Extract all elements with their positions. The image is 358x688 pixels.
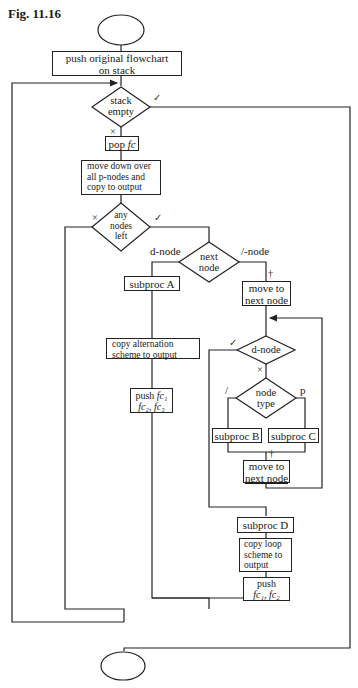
decision-text: next bbox=[189, 251, 229, 262]
any-nodes-left-decision: any nodes left bbox=[101, 210, 141, 242]
subproc-b-box: subproc B bbox=[212, 428, 262, 443]
move-to-next-node-box-2: move to next node bbox=[243, 460, 290, 483]
p-branch-label: p bbox=[300, 384, 306, 396]
decision-text: node bbox=[246, 387, 286, 398]
decision-text: empty bbox=[96, 106, 146, 117]
box-text: copy loop bbox=[244, 539, 282, 550]
box-text: push bbox=[135, 390, 154, 401]
decision-text: nodes bbox=[101, 221, 141, 232]
decision-text: type bbox=[246, 398, 286, 409]
subproc-d-box: subproc D bbox=[237, 517, 294, 533]
push-original-flowchart-box: push original flowchart on stack bbox=[52, 51, 182, 76]
box-text: subproc B bbox=[215, 430, 260, 442]
next-node-decision: next node bbox=[189, 251, 229, 273]
d-node-branch-label: d-node bbox=[150, 245, 181, 257]
no-cross-icon: × bbox=[257, 364, 263, 375]
move-down-box: move down over all p-nodes and copy to o… bbox=[81, 160, 161, 195]
yes-check-icon: ✓ bbox=[154, 212, 162, 223]
box-text: push original flowchart bbox=[66, 52, 169, 64]
variable-text: fc₁ bbox=[157, 390, 168, 401]
box-text: next node bbox=[245, 472, 288, 484]
box-text: subproc C bbox=[271, 430, 316, 442]
box-text: copy to output bbox=[87, 182, 142, 193]
copy-loop-box: copy loop scheme to output bbox=[239, 538, 292, 572]
decision-text: any bbox=[101, 210, 141, 221]
box-text: subproc A bbox=[130, 278, 175, 290]
yes-check-icon: ✓ bbox=[153, 92, 161, 103]
box-text: scheme to bbox=[244, 550, 282, 561]
box-text: move to bbox=[249, 282, 285, 294]
l-node-branch-label: /-node bbox=[241, 245, 269, 257]
decision-text: node bbox=[189, 262, 229, 273]
box-text: subproc D bbox=[243, 519, 289, 531]
move-to-next-node-box: move to next node bbox=[242, 281, 291, 306]
box-text: output bbox=[244, 560, 268, 571]
box-text: all p-nodes and bbox=[87, 172, 145, 183]
copy-alternation-box: copy alternation scheme to output bbox=[106, 338, 200, 359]
variable-text: fc₂, fc₃ bbox=[138, 401, 164, 412]
box-text: push bbox=[257, 578, 276, 589]
decision-text: d-node bbox=[241, 344, 291, 355]
end-terminal bbox=[101, 652, 145, 680]
dagger-icon: † bbox=[268, 268, 273, 279]
box-text: copy alternation bbox=[112, 339, 173, 350]
dagger-icon: † bbox=[269, 448, 274, 459]
push-fc123-box: push fc₁ fc₂, fc₃ bbox=[130, 388, 173, 413]
box-text: pop bbox=[108, 138, 125, 150]
d-node-decision: d-node bbox=[241, 344, 291, 355]
stack-empty-decision: stack empty bbox=[96, 95, 146, 117]
pop-fc-box: pop fc bbox=[105, 136, 139, 151]
box-text: move down over bbox=[87, 161, 151, 172]
decision-text: left bbox=[101, 231, 141, 242]
variable-text: fc₁, fc₂ bbox=[253, 589, 279, 600]
decision-text: stack bbox=[96, 95, 146, 106]
box-text: on stack bbox=[99, 64, 135, 76]
yes-check-icon: ✓ bbox=[229, 337, 237, 348]
box-text: scheme to output bbox=[112, 350, 177, 361]
box-text: move to bbox=[249, 460, 285, 472]
variable-text: fc bbox=[128, 138, 136, 150]
no-cross-icon: × bbox=[92, 212, 98, 223]
subproc-c-box: subproc C bbox=[268, 428, 319, 443]
push-fc12-box: push fc₁, fc₂ bbox=[243, 577, 290, 601]
box-text: next node bbox=[245, 294, 288, 306]
node-type-decision: node type bbox=[246, 387, 286, 409]
start-terminal bbox=[98, 15, 144, 45]
l-branch-label: / bbox=[225, 384, 228, 396]
subproc-a-box: subproc A bbox=[124, 276, 180, 291]
